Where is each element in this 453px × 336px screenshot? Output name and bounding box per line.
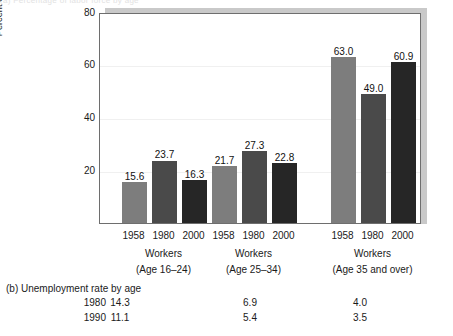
table-cell: 11.1: [100, 312, 140, 323]
unemployment-table: 198014.36.94.0199011.15.43.5: [0, 0, 453, 336]
table-cell: 5.4: [230, 312, 270, 323]
table-cell: 3.5: [340, 312, 380, 323]
table-cell: 6.9: [230, 297, 270, 308]
table-cell: 4.0: [340, 297, 380, 308]
table-cell: 14.3: [100, 297, 140, 308]
